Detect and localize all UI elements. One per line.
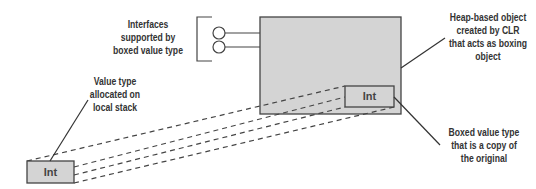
value-type-label: Value type allocated on local stack <box>86 75 143 114</box>
interfaces-label: Interfaces supported by boxed value type <box>107 18 189 57</box>
boxing-diagram: Int Int Interfaces supported by boxed va… <box>0 0 536 189</box>
boxed-leader-line <box>394 97 440 145</box>
heap-leader-line <box>401 38 445 68</box>
boxed-int-text: Int <box>363 90 377 102</box>
interface-lollipops <box>213 27 260 53</box>
boxed-copy-label: Boxed value type that is a copy of the o… <box>445 126 524 165</box>
heap-object-label: Heap-based object created by CLR that ac… <box>449 11 528 63</box>
stack-leader-line <box>50 100 88 161</box>
interfaces-bracket <box>197 17 212 61</box>
stack-int-text: Int <box>44 166 58 178</box>
